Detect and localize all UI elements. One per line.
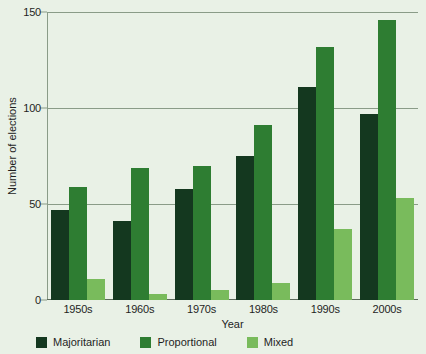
bar-1950s-mixed <box>87 279 105 300</box>
bar-groups <box>47 12 418 300</box>
y-tick-label-0: 0 <box>35 294 41 306</box>
bar-2000s-majoritarian <box>360 114 378 300</box>
y-axis-title-container: Number of elections <box>8 95 22 255</box>
y-axis-title: Number of elections <box>6 35 18 195</box>
bar-1990s-proportional <box>316 47 334 300</box>
bar-1990s-majoritarian <box>298 87 316 300</box>
plot-area: 050100150 <box>47 12 418 300</box>
legend-item-proportional: Proportional <box>140 336 216 348</box>
x-tick-label-1970s: 1970s <box>171 303 233 315</box>
x-tick-label-1960s: 1960s <box>109 303 171 315</box>
bar-group-1980s <box>232 12 294 300</box>
legend: MajoritarianProportionalMixed <box>36 336 323 348</box>
legend-swatch-mixed-icon <box>247 337 258 348</box>
y-tick-label-150: 150 <box>23 6 41 18</box>
bar-1960s-majoritarian <box>113 221 131 300</box>
legend-label-majoritarian: Majoritarian <box>53 336 110 348</box>
bar-group-1950s <box>47 12 109 300</box>
bar-group-1970s <box>171 12 233 300</box>
legend-item-mixed: Mixed <box>247 336 293 348</box>
legend-swatch-proportional-icon <box>140 337 151 348</box>
bar-1960s-proportional <box>131 168 149 300</box>
legend-label-mixed: Mixed <box>264 336 293 348</box>
bar-1950s-majoritarian <box>51 210 69 300</box>
bar-chart: Number of elections 050100150 1950s1960s… <box>0 0 426 354</box>
legend-label-proportional: Proportional <box>157 336 216 348</box>
bar-1970s-proportional <box>193 166 211 300</box>
bar-1960s-mixed <box>149 294 167 300</box>
y-tick-label-50: 50 <box>29 198 41 210</box>
legend-item-majoritarian: Majoritarian <box>36 336 110 348</box>
bar-1970s-majoritarian <box>175 189 193 300</box>
bar-1990s-mixed <box>334 229 352 300</box>
x-tick-label-1990s: 1990s <box>294 303 356 315</box>
bar-1950s-proportional <box>69 187 87 300</box>
y-tick-label-100: 100 <box>23 102 41 114</box>
x-axis-title: Year <box>47 318 418 330</box>
x-tick-label-1980s: 1980s <box>232 303 294 315</box>
x-tick-label-1950s: 1950s <box>47 303 109 315</box>
x-axis-tick-labels: 1950s1960s1970s1980s1990s2000s <box>47 303 418 315</box>
bar-group-1990s <box>294 12 356 300</box>
bar-2000s-mixed <box>396 198 414 300</box>
bar-1980s-mixed <box>272 283 290 300</box>
bar-group-1960s <box>109 12 171 300</box>
bar-group-2000s <box>356 12 418 300</box>
x-tick-label-2000s: 2000s <box>356 303 418 315</box>
bar-1980s-majoritarian <box>236 156 254 300</box>
bar-1970s-mixed <box>211 290 229 300</box>
bar-2000s-proportional <box>378 20 396 300</box>
legend-swatch-majoritarian-icon <box>36 337 47 348</box>
bar-1980s-proportional <box>254 125 272 300</box>
